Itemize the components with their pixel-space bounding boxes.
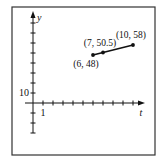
x-axis-label: t [140, 107, 143, 118]
data-label: (6, 48) [73, 59, 98, 70]
data-label: (7, 50.5) [84, 38, 116, 49]
series: (6, 48)(7, 50.5)(10, 58) [73, 30, 146, 70]
data-point [131, 43, 135, 47]
chart: t y 1 10 (6, 48)(7, 50.5)(10, 58) [0, 0, 157, 161]
y-tick-label: 10 [19, 87, 29, 98]
data-label: (10, 58) [116, 30, 146, 41]
data-point [91, 53, 95, 57]
x-axis-arrow [138, 101, 145, 106]
y-axis-arrow [31, 11, 36, 18]
x-tick-label: 1 [41, 107, 46, 118]
y-axis-label: y [36, 12, 42, 23]
data-point [101, 51, 105, 55]
